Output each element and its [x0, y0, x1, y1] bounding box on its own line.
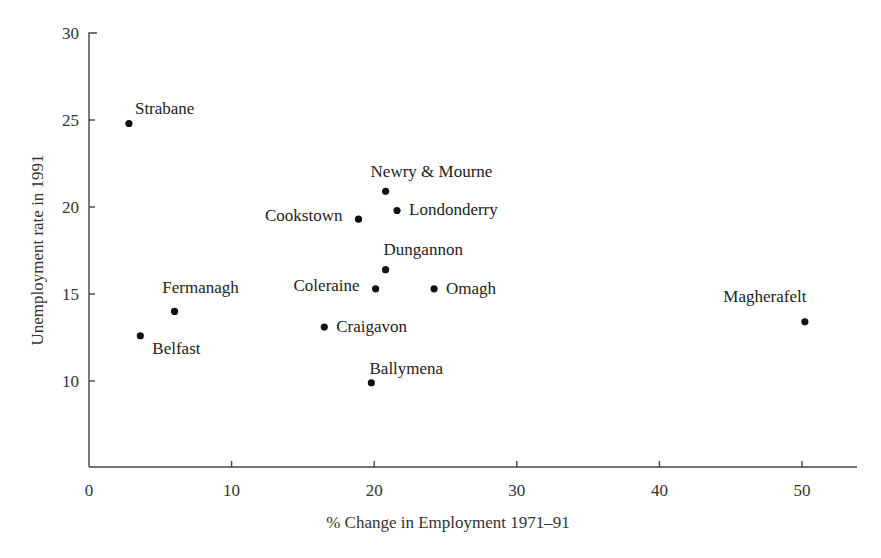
x-tick-label: 40	[651, 481, 668, 500]
point-label: Magherafelt	[723, 287, 806, 306]
point-label: Dungannon	[384, 240, 464, 259]
point-label: Ballymena	[370, 359, 444, 378]
data-point: Fermanagh	[162, 278, 239, 315]
x-axis-title: % Change in Employment 1971–91	[326, 513, 570, 532]
x-tick-label: 50	[794, 481, 811, 500]
y-axis-title: Unemployment rate in 1991	[28, 154, 47, 345]
y-ticks: 1015202530	[62, 24, 95, 391]
data-point: Ballymena	[368, 359, 444, 387]
data-point: Cookstown	[265, 206, 362, 225]
x-tick-label: 30	[508, 481, 525, 500]
point-marker	[382, 266, 389, 273]
point-label: Belfast	[152, 339, 200, 358]
x-tick-label: 10	[223, 481, 240, 500]
y-tick-label: 20	[62, 198, 79, 217]
point-marker	[801, 318, 808, 325]
scatter-chart: 1015202530 01020304050 % Change in Emplo…	[0, 0, 881, 558]
point-label: Newry & Mourne	[371, 162, 493, 181]
point-marker	[321, 323, 328, 330]
point-marker	[430, 285, 437, 292]
point-marker	[382, 188, 389, 195]
data-point: Craigavon	[321, 317, 408, 336]
data-point: Coleraine	[294, 276, 380, 295]
point-label: Omagh	[446, 279, 497, 298]
data-point: Omagh	[430, 279, 496, 298]
point-marker	[125, 120, 132, 127]
point-marker	[137, 332, 144, 339]
point-label: Cookstown	[265, 206, 343, 225]
y-tick-label: 10	[62, 372, 79, 391]
x-tick-label: 0	[85, 481, 94, 500]
data-point: Newry & Mourne	[371, 162, 493, 195]
point-marker	[368, 379, 375, 386]
point-label: Coleraine	[294, 276, 360, 295]
y-tick-label: 30	[62, 24, 79, 43]
point-marker	[355, 216, 362, 223]
data-point: Strabane	[125, 99, 194, 127]
y-axis-line	[89, 33, 97, 467]
y-tick-label: 15	[62, 285, 79, 304]
point-label: Londonderry	[409, 200, 498, 219]
data-point: Dungannon	[382, 240, 463, 274]
point-label: Fermanagh	[162, 278, 239, 297]
point-marker	[393, 207, 400, 214]
data-point: Magherafelt	[723, 287, 808, 326]
x-tick-label: 20	[366, 481, 383, 500]
y-tick-label: 25	[62, 111, 79, 130]
axes	[89, 33, 857, 467]
point-label: Craigavon	[336, 317, 407, 336]
data-point: Londonderry	[393, 200, 498, 219]
point-marker	[171, 308, 178, 315]
point-label: Strabane	[135, 99, 194, 118]
point-marker	[372, 285, 379, 292]
data-point: Belfast	[137, 332, 201, 358]
data-points: StrabaneNewry & MourneLondonderryCooksto…	[125, 99, 808, 386]
